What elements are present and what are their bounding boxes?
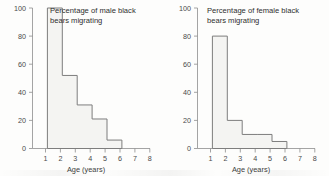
x-tick-label-7: 7 — [298, 154, 302, 163]
chart-male-bears-svg: 100 80 60 40 20 0 1 2 3 4 5 6 — [0, 0, 164, 176]
y-axis-ticks — [29, 8, 33, 149]
y-axis-ticks — [194, 8, 198, 149]
y-tick-label-20: 20 — [183, 116, 191, 125]
x-tick-label-3: 3 — [73, 154, 77, 163]
y-tick-label-40: 40 — [18, 88, 26, 97]
chart-female-bears-svg: 100 80 60 40 20 0 1 2 3 4 5 6 7 8 — [165, 0, 329, 176]
y-tick-label-100: 100 — [179, 4, 191, 13]
y-tick-label-0: 0 — [22, 144, 26, 153]
x-tick-label-2: 2 — [58, 154, 62, 163]
x-tick-label-3: 3 — [238, 154, 242, 163]
x-axis-title: Age (years) — [67, 165, 105, 174]
x-tick-label-4: 4 — [253, 154, 257, 163]
x-tick-label-7: 7 — [133, 154, 137, 163]
y-tick-label-20: 20 — [18, 116, 26, 125]
figure-container: 100 80 60 40 20 0 1 2 3 4 5 6 — [0, 0, 329, 176]
chart-title-line1: Percentage of male black — [50, 6, 136, 15]
y-tick-label-80: 80 — [183, 32, 191, 41]
y-tick-label-60: 60 — [18, 60, 26, 69]
x-axis-title: Age (years) — [232, 165, 270, 174]
chart-female-bears: 100 80 60 40 20 0 1 2 3 4 5 6 7 8 — [165, 0, 329, 176]
x-tick-label-8: 8 — [148, 154, 152, 163]
x-tick-label-2: 2 — [223, 154, 227, 163]
chart-title-line2: bears migrating — [207, 16, 259, 25]
x-tick-label-6: 6 — [283, 154, 287, 163]
y-tick-label-100: 100 — [14, 4, 26, 13]
histogram-bars — [47, 8, 122, 149]
x-tick-label-5: 5 — [103, 154, 107, 163]
chart-title-line1: Percentage of female black — [207, 6, 299, 15]
x-axis-ticks — [46, 149, 150, 153]
x-tick-label-1: 1 — [209, 154, 213, 163]
histogram-bars — [212, 36, 287, 148]
x-tick-label-1: 1 — [44, 154, 48, 163]
chart-title-line2: bears migrating — [50, 16, 102, 25]
y-tick-label-0: 0 — [187, 144, 191, 153]
x-tick-label-5: 5 — [268, 154, 272, 163]
x-tick-label-8: 8 — [313, 154, 317, 163]
y-tick-label-60: 60 — [183, 60, 191, 69]
x-tick-label-4: 4 — [88, 154, 92, 163]
x-axis-ticks — [211, 149, 315, 153]
y-tick-label-80: 80 — [18, 32, 26, 41]
x-tick-label-6: 6 — [118, 154, 122, 163]
y-tick-label-40: 40 — [183, 88, 191, 97]
chart-male-bears: 100 80 60 40 20 0 1 2 3 4 5 6 — [0, 0, 164, 176]
